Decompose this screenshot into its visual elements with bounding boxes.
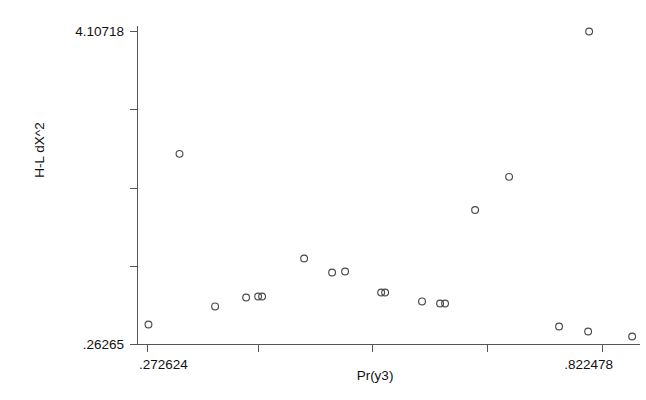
data-point-layer [145,28,635,340]
data-point [506,173,513,180]
y-axis-title: H-L dX^2 [32,122,47,177]
data-point [556,323,563,330]
x-axis-max-tick-label: .822478 [564,357,613,372]
data-point [629,333,636,340]
data-point [442,300,449,307]
y-axis-max-tick-label: 4.10718 [75,24,124,39]
data-point [145,321,152,328]
data-point [212,303,219,310]
x-axis-group: .272624 .822478 Pr(y3) [138,345,641,384]
chart-canvas: 4.10718 .26265 H-L dX^2 .272624 .822478 … [0,0,646,400]
x-axis-title: Pr(y3) [357,368,394,383]
data-point [329,269,336,276]
x-axis-min-tick-label: .272624 [139,357,188,372]
data-point [301,255,308,262]
y-axis-group: 4.10718 .26265 H-L dX^2 [32,24,138,352]
data-point [586,28,593,35]
data-point [342,268,349,275]
data-point [176,150,183,157]
data-point [472,207,479,214]
data-point [585,328,592,335]
data-point [243,294,250,301]
data-point [419,298,426,305]
data-point [382,289,389,296]
scatter-plot-figure: 4.10718 .26265 H-L dX^2 .272624 .822478 … [0,0,646,400]
y-axis-min-tick-label: .26265 [83,337,124,352]
